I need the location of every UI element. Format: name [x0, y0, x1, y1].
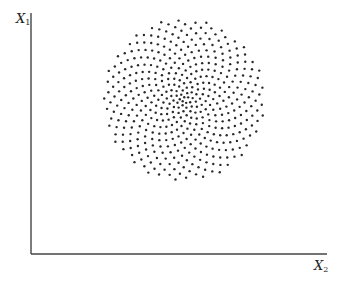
data-point	[191, 97, 193, 99]
data-point	[158, 139, 160, 141]
data-point	[173, 106, 175, 108]
data-point	[180, 30, 182, 32]
data-point	[113, 95, 115, 97]
data-point	[122, 133, 124, 135]
data-point	[141, 78, 143, 80]
data-point	[200, 26, 202, 28]
data-point	[197, 88, 199, 90]
data-point	[185, 176, 187, 178]
data-point	[227, 126, 229, 128]
data-point	[157, 99, 159, 101]
data-point	[175, 90, 177, 92]
data-point	[135, 104, 137, 106]
data-point	[162, 68, 164, 70]
data-point	[177, 19, 179, 21]
data-point	[187, 96, 189, 98]
data-point	[228, 69, 230, 71]
data-point	[112, 76, 114, 78]
data-point	[143, 91, 145, 93]
data-point	[261, 104, 263, 106]
data-point	[194, 111, 196, 113]
data-point	[212, 98, 214, 100]
data-point	[202, 122, 204, 124]
data-point	[148, 84, 150, 86]
data-point	[125, 120, 127, 122]
data-point	[204, 32, 206, 34]
data-point	[208, 89, 210, 91]
data-point	[178, 67, 180, 69]
scatter-points	[103, 19, 264, 180]
data-point	[193, 57, 195, 59]
data-point	[213, 133, 215, 135]
data-point	[206, 153, 208, 155]
data-point	[153, 94, 155, 96]
data-point	[244, 53, 246, 55]
data-point	[247, 82, 249, 84]
data-point	[177, 135, 179, 137]
data-point	[168, 84, 170, 86]
data-point	[112, 86, 114, 88]
data-point	[171, 124, 173, 126]
data-point	[185, 102, 187, 104]
data-point	[157, 51, 159, 53]
data-point	[214, 127, 216, 129]
data-point	[125, 94, 127, 96]
data-point	[124, 52, 126, 54]
data-point	[188, 170, 190, 172]
data-point	[114, 65, 116, 67]
data-point	[205, 108, 207, 110]
data-point	[218, 149, 220, 151]
data-point	[190, 133, 192, 135]
data-point	[170, 131, 172, 133]
data-point	[150, 34, 152, 36]
data-point	[222, 141, 224, 143]
data-point	[151, 27, 153, 29]
data-point	[158, 28, 160, 30]
data-point	[137, 145, 139, 147]
data-point	[189, 143, 191, 145]
data-point	[158, 173, 160, 175]
data-point	[123, 86, 125, 88]
data-point	[212, 155, 214, 157]
data-point	[107, 91, 109, 93]
data-point	[172, 138, 174, 140]
data-point	[189, 110, 191, 112]
data-point	[216, 102, 218, 104]
data-point	[245, 110, 247, 112]
data-point	[173, 116, 175, 118]
data-point	[166, 113, 168, 115]
data-point	[234, 40, 236, 42]
data-point	[129, 147, 131, 149]
data-point	[193, 155, 195, 157]
data-point	[231, 102, 233, 104]
data-point	[262, 114, 264, 116]
data-point	[220, 46, 222, 48]
data-point	[245, 144, 247, 146]
data-point	[157, 89, 159, 91]
data-point	[189, 101, 191, 103]
data-point	[159, 59, 161, 61]
data-point	[219, 86, 221, 88]
data-point	[194, 138, 196, 140]
data-point	[223, 81, 225, 83]
data-point	[142, 85, 144, 87]
data-point	[186, 92, 188, 94]
data-point	[251, 61, 253, 63]
data-point	[205, 75, 207, 77]
data-point	[239, 147, 241, 149]
data-point	[226, 156, 228, 158]
data-point	[180, 116, 182, 118]
data-point	[107, 81, 109, 83]
data-point	[181, 74, 183, 76]
data-point	[135, 80, 137, 82]
data-point	[226, 134, 228, 136]
data-point	[177, 112, 179, 114]
data-point	[225, 105, 227, 107]
data-point	[159, 145, 161, 147]
data-point	[200, 56, 202, 58]
data-point	[211, 76, 213, 78]
data-point	[141, 119, 143, 121]
data-point	[185, 106, 187, 108]
data-point	[133, 120, 135, 122]
data-point	[240, 81, 242, 83]
